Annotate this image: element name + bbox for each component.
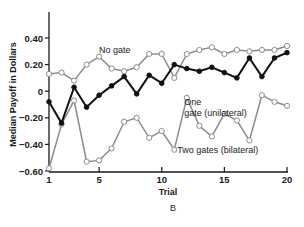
data-point: [209, 134, 214, 139]
data-point: [159, 81, 164, 86]
x-axis-title: Trial: [159, 187, 178, 197]
data-point: [210, 65, 215, 70]
data-point: [284, 103, 289, 108]
y-ticks: 0.400.200−0.20−0.40−0.60: [19, 33, 49, 177]
data-point: [84, 159, 89, 164]
y-tick-label: 0.40: [25, 33, 44, 44]
data-point: [272, 56, 277, 61]
data-point: [197, 69, 202, 74]
data-point: [159, 51, 164, 56]
data-point: [122, 69, 127, 74]
data-point: [247, 138, 252, 143]
data-point: [184, 66, 189, 71]
data-point: [47, 100, 52, 105]
data-point: [97, 93, 102, 98]
data-point: [260, 74, 265, 79]
series-one-gate-unilateral: [47, 50, 290, 125]
data-point: [46, 166, 51, 171]
data-point: [172, 62, 177, 67]
data-point: [234, 47, 239, 52]
data-point: [172, 75, 177, 80]
data-point: [235, 76, 240, 81]
data-point: [209, 45, 214, 50]
data-point: [71, 98, 76, 103]
data-point: [159, 129, 164, 134]
data-point: [109, 146, 114, 151]
data-point: [247, 56, 252, 61]
data-point: [222, 70, 227, 75]
y-tick-label: 0.20: [25, 59, 44, 70]
x-tick-label: 15: [219, 174, 230, 185]
data-point: [109, 66, 114, 71]
series-two-gates-bilateral: [46, 93, 289, 171]
data-point: [147, 73, 152, 78]
x-tick-label: 1: [46, 174, 52, 185]
data-point: [272, 99, 277, 104]
data-point: [46, 71, 51, 76]
y-axis-title: Median Payoff in Dollars: [8, 42, 18, 147]
data-point: [147, 51, 152, 56]
data-point: [134, 92, 139, 97]
annotation-one-gate-line2: gate (unilateral): [184, 108, 247, 118]
data-point: [197, 123, 202, 128]
axes: 0.400.200−0.20−0.40−0.60 15101520: [19, 12, 292, 185]
panel-label: B: [170, 203, 176, 213]
x-ticks: 15101520: [46, 167, 292, 185]
y-tick-label: −0.60: [19, 166, 43, 177]
data-point: [71, 78, 76, 83]
data-point: [147, 135, 152, 140]
data-point: [109, 84, 114, 89]
data-point: [84, 62, 89, 67]
data-point: [97, 54, 102, 59]
data-point: [247, 49, 252, 54]
data-point: [97, 158, 102, 163]
data-point: [285, 50, 290, 55]
data-point: [84, 105, 89, 110]
data-point: [59, 70, 64, 75]
data-point: [259, 93, 264, 98]
data-point: [284, 43, 289, 48]
y-tick-label: −0.20: [19, 112, 43, 123]
x-tick-label: 20: [282, 174, 293, 185]
y-tick-label: 0: [38, 86, 43, 97]
annotation-no-gate: No gate: [99, 45, 131, 55]
data-point: [72, 85, 77, 90]
data-point: [172, 147, 177, 152]
payoff-line-chart: 0.400.200−0.20−0.40−0.60 15101520 Median…: [0, 0, 304, 227]
data-point: [259, 47, 264, 52]
data-point: [197, 47, 202, 52]
x-tick-label: 5: [96, 174, 102, 185]
data-point: [234, 118, 239, 123]
data-point: [134, 115, 139, 120]
annotation-one-gate-line1: One: [184, 97, 201, 107]
y-tick-label: −0.40: [19, 139, 43, 150]
x-tick-label: 10: [156, 174, 167, 185]
data-point: [272, 47, 277, 52]
data-point: [122, 119, 127, 124]
data-point: [122, 74, 127, 79]
data-point: [184, 51, 189, 56]
data-point: [134, 65, 139, 70]
data-point: [59, 121, 64, 126]
annotation-two-gates: Two gates (bilateral): [177, 145, 258, 155]
data-point: [222, 51, 227, 56]
